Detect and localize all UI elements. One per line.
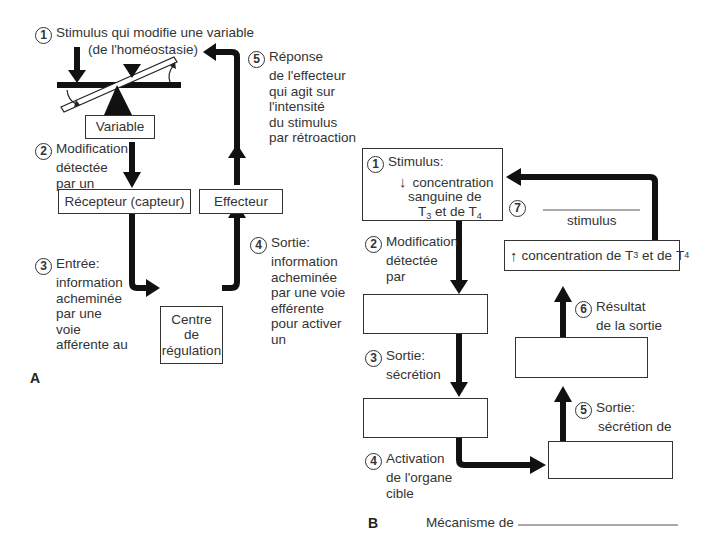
a-step4: 4Sortie: information acheminée par une v… (250, 235, 345, 347)
variable-box: Variable (85, 115, 155, 139)
step-number-badge: 3 (365, 350, 382, 367)
mechanism-label: Mécanisme de (426, 515, 514, 531)
step-number-badge: 5 (575, 402, 592, 419)
arrow-up-icon: ↑ (510, 248, 518, 264)
b-stimulus-box: 1Stimulus: ↓concentration sanguine de T3… (362, 148, 503, 221)
step-number-badge: 2 (35, 143, 52, 160)
step-number-badge: 1 (367, 156, 384, 173)
b-blank-box-gland[interactable] (363, 398, 488, 438)
a-step2: 2Modification détectée par un (35, 141, 128, 191)
step-number-badge: 3 (35, 258, 52, 275)
step-number-badge: 6 (575, 301, 592, 318)
b-result-box: ↑concentration de T3 et de T4 (504, 240, 680, 271)
b-step4: 4Activation de l'organe cible (365, 451, 452, 501)
b-step5: 5Sortie: sécrétion de (575, 400, 672, 435)
step-number-badge: 5 (248, 51, 265, 68)
control-center-box: Centre de régulation (160, 306, 223, 364)
effector-box: Effecteur (199, 189, 283, 214)
b-step2: 2Modification détectée par (365, 234, 458, 284)
b-blank-box-result[interactable] (515, 337, 648, 378)
b-step7-caption: stimulus (567, 213, 617, 229)
panel-label-a: A (30, 370, 40, 386)
a-step5: 5Réponse de l'effecteur qui agit sur l'i… (248, 49, 356, 146)
b-blank-box-target-organ[interactable] (548, 441, 673, 479)
b-step6: 6Résultat de la sortie (575, 299, 662, 334)
step-number-badge: 2 (365, 236, 382, 253)
b-step7: 7 (509, 198, 530, 217)
arrow-down-icon: ↓ (399, 173, 407, 190)
b-blank-box-detector[interactable] (363, 294, 488, 334)
step-number-badge: 1 (35, 27, 52, 44)
arrowheads-a (123, 43, 246, 297)
a-step3: 3Entrée: information acheminée par une v… (35, 256, 128, 353)
hormone-t3-t4: T3 et de T4 (418, 204, 482, 225)
step-number-badge: 7 (509, 200, 526, 217)
receptor-box: Récepteur (capteur) (58, 189, 191, 214)
step-number-badge: 4 (250, 237, 267, 254)
b-step3: 3Sortie: sécrétion (365, 348, 441, 383)
step-number-badge: 4 (365, 453, 382, 470)
a-step1-line2: (de l'homéostasie) (88, 42, 198, 58)
panel-label-b: B (368, 515, 378, 531)
